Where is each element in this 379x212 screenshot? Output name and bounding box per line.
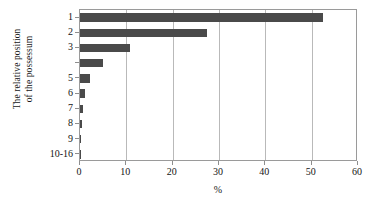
x-axis-tick-mark [357,161,358,165]
bar [80,135,81,143]
bar-row [80,101,358,116]
bar-row [80,56,358,71]
y-axis-tick-label: 9 [68,131,73,146]
x-axis-tick-label: 40 [249,166,279,177]
y-axis-tick-label: 8 [68,115,73,130]
y-axis-tick-label: 7 [68,100,73,115]
x-axis-tick-label: 30 [203,166,233,177]
bar [80,74,90,82]
x-axis-tick-label: 50 [296,166,326,177]
bar-row [80,132,358,147]
x-axis-tick-label: 10 [110,166,140,177]
bar-row [80,116,358,131]
y-axis-tick-label: 3 [68,39,73,54]
y-axis-tick-label: 5 [68,70,73,85]
y-axis-tick-label: 1 [68,9,73,24]
bar-row [80,86,358,101]
x-axis-tick-label: 60 [342,166,372,177]
x-axis-title: % [79,184,357,195]
bar [80,59,103,67]
bar-row [80,147,358,162]
bar [80,29,207,37]
bar-row [80,71,358,86]
y-axis-tick-group: 1235678910-16 [0,9,79,161]
x-axis-tick-label: 20 [157,166,187,177]
x-axis-tick-mark [218,161,219,165]
bar [80,150,81,158]
x-axis-tick-mark [79,161,80,165]
bar-row [80,10,358,25]
bar-row [80,25,358,40]
y-axis-tick-label: 10-16 [50,146,73,161]
x-axis-tick-group: 0102030405060 [79,161,357,183]
y-axis-tick-label: 2 [68,24,73,39]
y-axis-tick-label: 6 [68,85,73,100]
bar [80,89,85,97]
x-axis-tick-mark [264,161,265,165]
x-axis-tick-label: 0 [64,166,94,177]
bar [80,44,130,52]
x-axis-tick-mark [311,161,312,165]
x-axis-tick-mark [172,161,173,165]
bar [80,105,83,113]
bar-chart-figure: The relative position of the possessum 1… [0,0,379,212]
plot-area [79,9,357,161]
x-axis-tick-mark [125,161,126,165]
bar [80,120,82,128]
bars-layer [80,10,356,160]
bar-row [80,40,358,55]
bar [80,13,323,21]
